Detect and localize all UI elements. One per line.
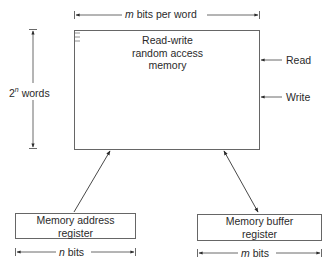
memory-title: Read-write random access memory <box>110 34 225 72</box>
memory-title-line1: Read-write <box>110 34 225 47</box>
memory-title-line3: memory <box>110 59 225 72</box>
address-width-label: n bits <box>59 246 84 258</box>
height-label: 2n words <box>9 83 50 100</box>
memory-title-line2: random access <box>110 47 225 60</box>
width-text: bits per word <box>134 8 197 20</box>
buffer-register-line1: Memory buffer <box>197 215 322 228</box>
write-label: Write <box>286 91 310 103</box>
buffer-register-line2: register <box>197 228 322 241</box>
read-label: Read <box>286 54 311 66</box>
height-text: words <box>19 87 50 99</box>
buffer-register-label: Memory buffer register <box>197 215 322 240</box>
width-variable: m <box>125 8 134 20</box>
buffer-width-text: bits <box>250 247 269 259</box>
width-label: m bits per word <box>125 8 197 20</box>
address-width-text: bits <box>65 246 84 258</box>
address-register-line1: Memory address <box>15 214 136 227</box>
buffer-width-label: m bits <box>241 247 269 259</box>
address-register-line2: register <box>15 227 136 240</box>
memory-organization-diagram: m bits per word Read-write random access… <box>0 0 332 263</box>
address-register-label: Memory address register <box>15 214 136 239</box>
buffer-width-variable: m <box>241 247 250 259</box>
